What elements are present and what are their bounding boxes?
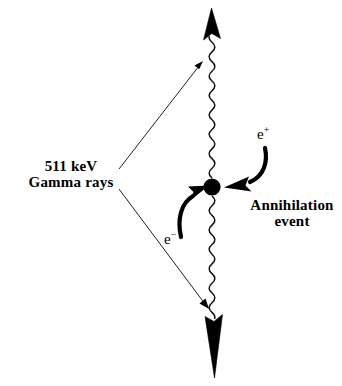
pointer-lower-arrowhead [200, 299, 210, 310]
electron-charge-sign: − [171, 229, 177, 240]
pointer-upper-line [119, 66, 199, 169]
gamma-ray-label: 511 keV Gamma rays [8, 158, 134, 190]
gamma-label-line1: 511 keV [45, 158, 98, 174]
positron-symbol: e [257, 126, 264, 142]
gamma-label-pointer-lower [119, 189, 209, 309]
electron-arrowhead [188, 186, 209, 202]
gamma-label-line2: Gamma rays [8, 174, 134, 190]
photon-up-wave [209, 36, 215, 178]
gamma-label-pointer-upper [119, 61, 203, 169]
gamma-ray-photon-down [205, 196, 223, 378]
gamma-ray-photon-up [204, 8, 221, 178]
positron-charge-sign: + [264, 124, 270, 135]
photon-down-arrowhead [205, 315, 223, 379]
electron-curved-arrow [180, 186, 210, 238]
electron-label: e− [164, 231, 176, 247]
electron-arrow-shaft [180, 196, 194, 237]
positron-arrow-shaft [250, 148, 266, 182]
electron-symbol: e [164, 231, 171, 247]
annihilation-event-label: Annihilation event [243, 197, 341, 229]
pointer-upper-arrowhead [195, 61, 204, 69]
diagram-canvas [0, 0, 342, 386]
photon-up-arrowhead [204, 8, 221, 40]
annihilation-label-line1: Annihilation [250, 197, 333, 213]
pointer-lower-line [119, 189, 205, 304]
annihilation-label-line2: event [243, 213, 341, 229]
annihilation-diagram: 511 keV Gamma rays Annihilation event e+… [0, 0, 342, 386]
positron-arrowhead [224, 177, 252, 192]
positron-label: e+ [257, 126, 269, 142]
photon-down-wave [209, 196, 215, 319]
positron-curved-arrow [224, 148, 266, 192]
